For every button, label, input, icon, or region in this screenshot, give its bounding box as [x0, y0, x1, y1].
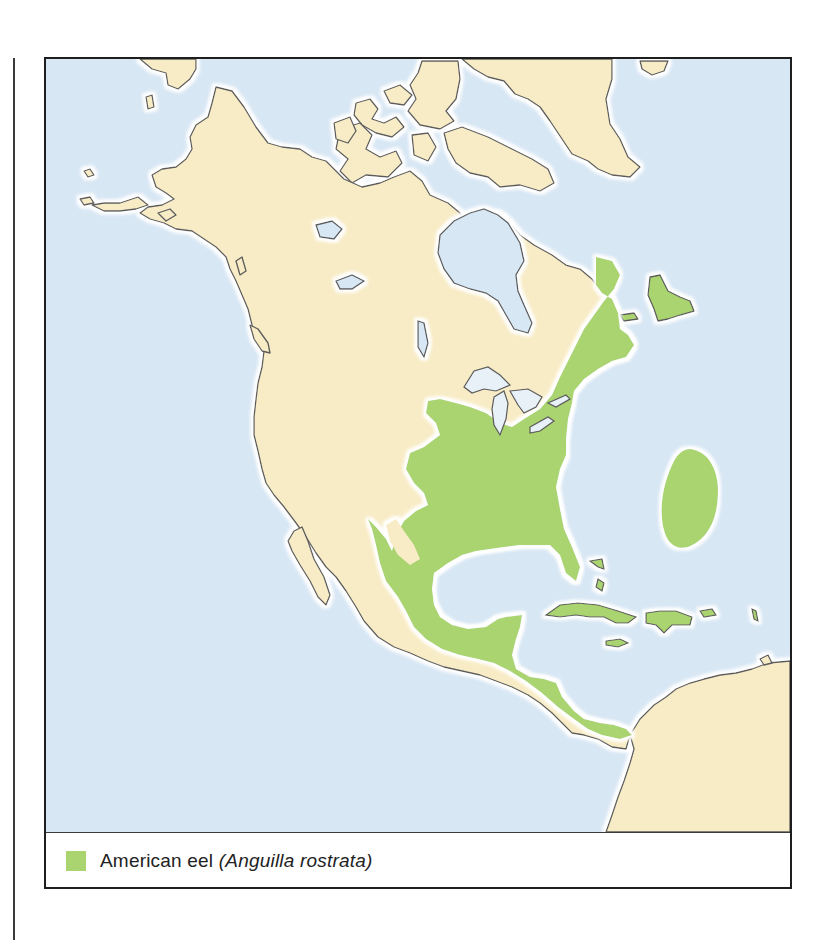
prince-edward-island: [620, 313, 638, 321]
page-margin-rule: [13, 58, 15, 940]
legend-common-name: American eel: [100, 850, 213, 871]
range-map: [46, 59, 790, 833]
saint-lawrence-island: [146, 95, 154, 109]
map-figure: American eel (Anguilla rostrata): [44, 57, 792, 889]
legend-scientific-name: (Anguilla rostrata): [219, 850, 373, 871]
map-legend: American eel (Anguilla rostrata): [46, 834, 790, 887]
legend-label: American eel (Anguilla rostrata): [100, 850, 373, 872]
legend-swatch-american-eel: [66, 851, 86, 871]
